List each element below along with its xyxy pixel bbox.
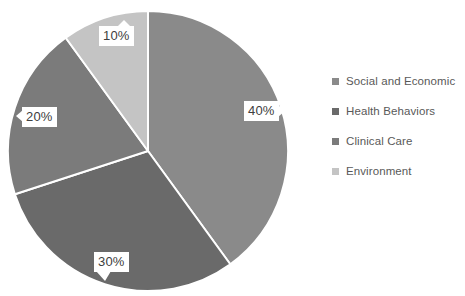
data-label-value: 40% — [248, 103, 275, 118]
data-label-clinical-care: 20% — [22, 107, 57, 127]
legend-swatch-icon — [332, 108, 339, 115]
legend-item[interactable]: Health Behaviors — [332, 96, 465, 126]
legend-swatch-icon — [332, 168, 339, 175]
pie-slice-group — [8, 11, 288, 291]
callout-tail-icon — [96, 271, 111, 281]
legend-item[interactable]: Social and Economic — [332, 66, 465, 96]
callout-tail-icon — [278, 105, 285, 117]
legend-item-label: Clinical Care — [346, 135, 413, 147]
data-label-health-behaviors: 30% — [94, 252, 129, 272]
data-label-value: 10% — [103, 28, 130, 43]
data-label-value: 20% — [26, 109, 53, 124]
legend-item-label: Environment — [346, 165, 412, 177]
data-label-social-and-economic: 40% — [244, 101, 279, 121]
legend-swatch-icon — [332, 78, 339, 85]
pie-chart-svg — [0, 0, 310, 296]
data-label-environment: 10% — [99, 26, 134, 46]
legend-item-label: Social and Economic — [346, 75, 455, 87]
legend-item-label: Health Behaviors — [346, 105, 435, 117]
callout-tail-icon — [117, 20, 131, 27]
legend-item[interactable]: Clinical Care — [332, 126, 465, 156]
callout-tail-icon — [16, 110, 23, 122]
legend-item[interactable]: Environment — [332, 156, 465, 186]
data-label-value: 30% — [98, 254, 125, 269]
legend-swatch-icon — [332, 138, 339, 145]
pie-chart-plot-area: 40% 30% 20% 10% — [0, 0, 310, 296]
chart-legend: Social and EconomicHealth BehaviorsClini… — [332, 66, 465, 186]
